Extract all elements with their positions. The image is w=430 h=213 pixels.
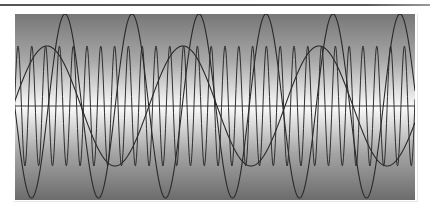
- chart-stage: [0, 0, 430, 213]
- sine-wave-plot: [0, 0, 430, 213]
- plot-left-edge: [14, 14, 15, 200]
